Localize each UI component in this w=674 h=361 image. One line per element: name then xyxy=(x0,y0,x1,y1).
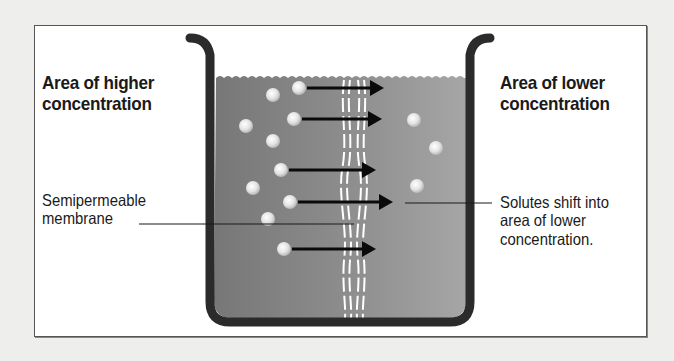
right-heading-line2: concentration xyxy=(500,93,610,114)
left-heading-line1: Area of higher xyxy=(42,72,154,93)
right-heading: Area of lower concentration xyxy=(500,72,610,115)
membrane-label-line2: membrane xyxy=(42,209,146,227)
membrane-label: Semipermeable membrane xyxy=(42,191,146,228)
membrane-label-line1: Semipermeable xyxy=(42,191,146,209)
osmosis-diagram xyxy=(0,0,674,361)
solutes-label-line2: area of lower xyxy=(500,211,609,229)
solutes-label-line3: concentration. xyxy=(500,230,609,248)
left-heading-line2: concentration xyxy=(42,93,154,114)
right-heading-line1: Area of lower xyxy=(500,72,610,93)
solutes-label-line1: Solutes shift into xyxy=(500,193,609,211)
solutes-label: Solutes shift into area of lower concent… xyxy=(500,193,609,248)
solution xyxy=(214,76,466,318)
left-heading: Area of higher concentration xyxy=(42,72,154,115)
